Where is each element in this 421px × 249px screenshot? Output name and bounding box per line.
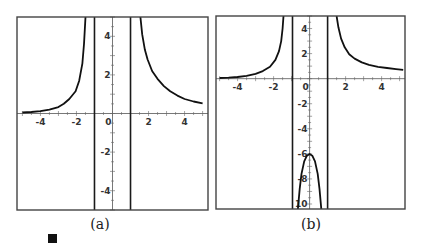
y-tick-label: 2: [301, 49, 307, 59]
y-tick-label: 10: [295, 199, 308, 209]
y-tick-label: 4: [104, 31, 110, 41]
curve-right-branch: [337, 16, 404, 70]
plot-b: -4-202410-8-6-4-224: [216, 16, 405, 209]
y-tick-label: 2: [104, 70, 110, 80]
x-tick-label: -2: [71, 117, 81, 127]
plot-frame: [216, 16, 405, 209]
y-tick-label: 4: [301, 24, 307, 34]
x-tick-label: 0: [302, 82, 308, 92]
x-tick-label: 2: [342, 82, 348, 92]
y-tick-label: -8: [298, 174, 308, 184]
x-tick-label: -4: [233, 82, 243, 92]
x-tick-label: 2: [145, 117, 151, 127]
y-tick-label: -4: [101, 186, 111, 196]
x-tick-label: -2: [269, 82, 279, 92]
x-tick-label: 4: [378, 82, 384, 92]
caption-a: (a): [90, 216, 109, 232]
plot-a: -4-2024-4-224: [17, 17, 208, 210]
curve-right-branch: [140, 17, 202, 103]
y-tick-label: -4: [298, 124, 308, 134]
y-tick-label: -2: [298, 99, 308, 109]
x-tick-label: -4: [35, 117, 45, 127]
curve-left-branch: [22, 17, 85, 113]
x-tick-label: 0: [105, 117, 111, 127]
x-tick-label: 4: [181, 117, 187, 127]
figure: -4-2024-4-224 -4-202410-8-6-4-224 (a) (b…: [0, 0, 421, 249]
caption-b: (b): [301, 216, 321, 232]
curve-left-branch: [220, 16, 284, 78]
qed-square-icon: [48, 234, 57, 243]
y-tick-label: -2: [101, 147, 111, 157]
